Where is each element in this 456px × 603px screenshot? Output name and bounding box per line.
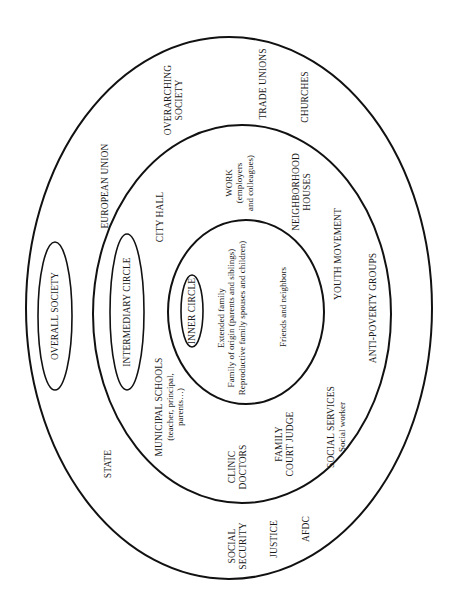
overall-society-title: OVERALL SOCIETY: [50, 272, 61, 360]
social-services-label: SOCIAL SERVICES Social worker: [326, 386, 347, 468]
justice-label: JUSTICE: [269, 520, 280, 558]
family-court-judge-label: FAMILY COURT JUDGE: [274, 411, 296, 476]
family-label: Extended family Family of origin (parent…: [216, 241, 247, 395]
intermediary-circle-title: INTERMEDIARY CIRCLE: [122, 257, 133, 366]
anti-poverty-groups-label: ANTI-POVERTY GROUPS: [368, 253, 379, 364]
neighborhood-houses-label: NEIGHBORHOOD HOUSES: [291, 153, 313, 231]
churches-label: CHURCHES: [300, 71, 311, 122]
inner-circle-title: INNER CIRCLE: [187, 278, 198, 344]
state-label: STATE: [103, 450, 114, 478]
friends-neighbors-label: Friends and neighbors: [278, 267, 288, 347]
trade-unions-label: TRADE UNIONS: [258, 48, 269, 119]
city-hall-label: CITY HALL: [155, 192, 166, 242]
clinic-doctors-label: CLINIC DOCTORS: [227, 445, 249, 490]
municipal-schools-label: MUNICIPAL SCHOOLS (teacher, principal, p…: [154, 358, 186, 457]
afdc-label: AFDC: [301, 516, 312, 542]
social-security-label: SOCIAL SECURITY: [227, 522, 249, 569]
youth-movement-label: YOUTH MOVEMENT: [333, 208, 344, 300]
work-label: WORK (employers and colleagues): [224, 155, 255, 211]
overarching-society-label: OVERARCHING SOCIETY: [163, 65, 185, 135]
european-union-label: EUROPEAN UNION: [100, 143, 111, 228]
